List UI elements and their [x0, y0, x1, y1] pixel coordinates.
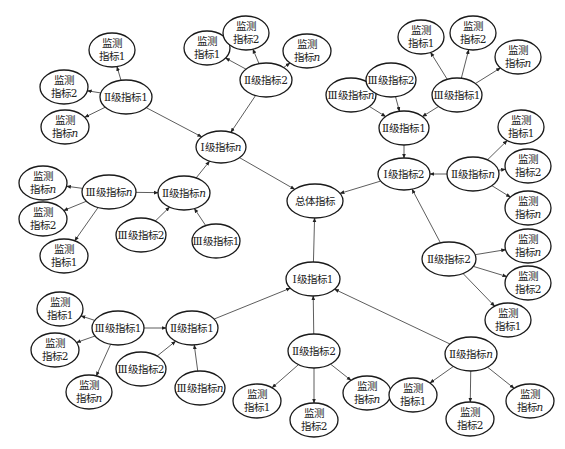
node-label: 监测: [518, 233, 538, 245]
node-g-m1: 监测指标1: [37, 292, 83, 326]
node-root: 总体指标: [287, 184, 343, 218]
node-g-l3-1: Ⅲ级指标1: [92, 311, 144, 345]
edge-C_L3_n-to-C_m1: [75, 208, 98, 241]
node-g-l3-n: Ⅲ级指标n: [175, 371, 225, 405]
node-label: 指标2: [301, 420, 328, 432]
node-label: 指标n: [30, 183, 57, 195]
edge-F_L2_2-to-F_m2: [473, 266, 506, 276]
node-label: 监测: [54, 74, 74, 86]
node-c-mn: 监测指标n: [19, 166, 67, 200]
node-label: 监测: [357, 380, 377, 392]
node-label: Ⅲ级指标1: [193, 235, 240, 247]
nodes-layer: 总体指标Ⅰ级指标nⅠ级指标2Ⅰ级指标1Ⅱ级指标1监测指标1监测指标2监测指标nⅡ…: [19, 16, 554, 437]
edge-H_L2_2-to-H_mn: [331, 364, 351, 380]
edge-D_L3_1-to-D_L2_1: [422, 106, 438, 116]
node-label: Ⅲ级指标2: [118, 229, 165, 241]
node-label: 指标2: [460, 33, 487, 45]
node-label: Ⅱ级指标1: [170, 322, 214, 334]
node-label: 指标n: [294, 51, 321, 63]
node-c-m2: 监测指标2: [19, 202, 67, 236]
node-label: Ⅲ级指标2: [118, 363, 165, 375]
node-label: 监测: [55, 114, 75, 126]
node-h-m1: 监测指标1: [233, 384, 281, 418]
edge-G_L3_1-to-G_mn: [96, 344, 110, 376]
node-label: 指标1: [99, 50, 126, 62]
node-c-l3-2: Ⅲ级指标2: [116, 218, 166, 252]
edge-G_L2_1-to-L1_1: [214, 288, 290, 319]
node-label: 指标1: [194, 48, 221, 60]
node-label: 指标n: [515, 208, 542, 220]
node-c-l2-n: Ⅱ级指标n: [158, 176, 210, 210]
node-f-m2: 监测指标2: [505, 266, 551, 300]
node-label: 监测: [236, 20, 256, 32]
node-label: Ⅱ级指标n: [449, 348, 493, 360]
node-label: Ⅰ级指标1: [293, 273, 334, 285]
node-label: Ⅲ级指标n: [328, 89, 375, 101]
node-e-l2-n: Ⅱ级指标n: [447, 157, 499, 191]
edge-D_L3_1-to-D_m1: [431, 52, 448, 79]
node-i-mn: 监测指标n: [506, 384, 554, 418]
edge-F_L2_2-to-F_mn: [475, 250, 505, 255]
node-label: 指标2: [42, 350, 69, 362]
node-label: 监测: [518, 153, 538, 165]
node-label: 监测: [411, 24, 431, 36]
node-label: 指标1: [47, 309, 74, 321]
edge-H_L2_2-to-H_m1: [272, 365, 298, 388]
node-label: Ⅲ级指标1: [95, 322, 142, 334]
node-b-m2: 监测指标2: [223, 16, 269, 50]
node-label: 监测: [508, 44, 528, 56]
node-label: 指标2: [515, 166, 542, 178]
node-label: 指标1: [508, 127, 535, 139]
edge-D_L3_1-to-D_m2: [461, 50, 468, 79]
node-label: Ⅲ级指标1: [434, 89, 481, 101]
edge-G_L3_1-to-G_m2: [77, 336, 96, 342]
node-label: 监测: [463, 20, 483, 32]
node-label: 指标n: [515, 246, 542, 258]
node-label: 监测: [511, 114, 531, 126]
node-label: 监测: [33, 206, 53, 218]
edge-A_L2_1-to-L1n: [146, 108, 201, 137]
edge-B_L2_2-to-B_m2: [253, 49, 259, 63]
edge-C_L3_n-to-C_m2: [64, 201, 87, 210]
node-label: Ⅲ级指标n: [177, 382, 224, 394]
node-h-mn: 监测指标n: [343, 376, 391, 410]
node-label: 监测: [518, 195, 538, 207]
node-label: Ⅲ级指标2: [368, 74, 415, 86]
node-g-l2-1: Ⅱ级指标1: [166, 311, 218, 345]
edge-D_L3_1-to-D_mn: [475, 68, 500, 84]
node-label: 监测: [50, 296, 70, 308]
node-e-m2: 监测指标2: [505, 149, 551, 183]
edge-G_L3_1-to-G_m1: [81, 316, 95, 320]
node-d-l2-1: Ⅱ级指标1: [379, 111, 429, 145]
node-i-l2-n: Ⅱ级指标n: [445, 337, 497, 371]
edge-I_L2_n-to-I_mn: [487, 367, 514, 388]
edge-D_L3_n-to-D_L2_1: [369, 106, 385, 116]
node-label: Ⅱ级指标2: [244, 74, 288, 86]
node-label: 指标2: [457, 419, 484, 431]
edge-E_L2_n-to-E_m1: [487, 141, 507, 160]
node-l1-2: Ⅰ级指标2: [378, 158, 430, 190]
node-label: Ⅰ级指标n: [201, 141, 242, 153]
node-label: Ⅱ级指标1: [104, 91, 148, 103]
node-label: 监测: [304, 407, 324, 419]
node-label: Ⅱ级指标n: [451, 168, 495, 180]
node-label: 监测: [45, 337, 65, 349]
node-label: 监测: [460, 406, 480, 418]
edge-A_L2_1-to-A_m2: [87, 91, 100, 93]
edge-I_L2_n-to-L1_1: [335, 289, 450, 344]
node-label: 监测: [54, 243, 74, 255]
edge-C_L2_n-to-L1n: [196, 161, 209, 178]
edge-C_L3_2-to-C_L2_n: [155, 207, 169, 221]
node-g-mn: 监测指标n: [66, 375, 112, 409]
node-label: 监测: [403, 382, 423, 394]
node-d-l3-1: Ⅲ级指标1: [432, 78, 482, 112]
node-label: 监测: [247, 388, 267, 400]
edge-F_L2_2-to-L1_2: [412, 189, 440, 243]
node-label: 指标2: [30, 219, 57, 231]
node-label: 指标1: [51, 256, 78, 268]
edge-D_L3_2-to-D_L2_1: [396, 97, 400, 112]
edge-B_L2_2-to-B_m1: [226, 58, 246, 69]
node-label: 总体指标: [295, 195, 336, 207]
node-c-l3-n: Ⅲ级指标n: [82, 175, 136, 209]
node-label: Ⅱ级指标1: [382, 122, 426, 134]
